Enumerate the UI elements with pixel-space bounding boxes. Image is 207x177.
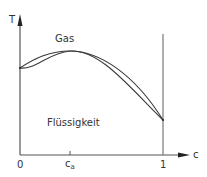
left-meeting-point: [19, 67, 21, 69]
tick-label-ca-main: c: [65, 158, 71, 169]
region-label-liquid: Flüssigkeit: [47, 118, 100, 128]
x-axis-arrow-icon: [178, 153, 190, 158]
tick-label-ca: ca: [65, 159, 75, 169]
right-meeting-point: [162, 119, 164, 121]
phase-diagram: [0, 0, 207, 177]
y-axis-label: T: [9, 15, 15, 25]
y-axis-arrow-icon: [18, 14, 23, 26]
boiling-curve: [20, 51, 163, 120]
tick-label-ca-subscript: a: [71, 163, 75, 171]
x-axis-label: c: [193, 150, 199, 160]
tick-label-0: 0: [17, 160, 23, 170]
tick-label-1: 1: [160, 160, 166, 170]
region-label-gas: Gas: [55, 34, 74, 44]
